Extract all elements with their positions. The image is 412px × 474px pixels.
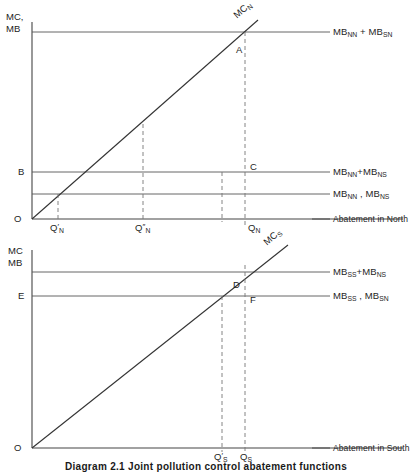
top-legend-1-b: MB xyxy=(368,26,382,37)
top-xtick-2-base: Q xyxy=(248,222,256,233)
top-xtick-2-sub: N xyxy=(256,227,261,234)
diagram-figure: MC, MB B O A C MCN Q′N Q″N QN MBNN + MBS… xyxy=(0,0,412,474)
bottom-legend-2-b-sub: SN xyxy=(379,295,388,302)
top-mc-n-curve xyxy=(32,20,258,219)
bottom-legend-2-op: , xyxy=(357,290,365,301)
bottom-y-axis-label-line1: MC xyxy=(8,245,23,257)
top-y-axis-label-line1: MC, xyxy=(6,11,23,23)
top-legend-3-op: , xyxy=(357,188,365,199)
top-y-axis-label-line2: MB xyxy=(6,23,23,35)
top-y-axis-label: MC, MB xyxy=(6,11,23,34)
bottom-legend-2-b: MB xyxy=(365,290,379,301)
top-xtick-1-base: Q xyxy=(135,222,143,233)
bottom-legend-1-b: MB xyxy=(362,266,376,277)
bottom-mc-s-curve xyxy=(32,245,288,448)
top-legend-1-a: MB xyxy=(333,26,347,37)
bottom-legend-2-a: MB xyxy=(333,290,347,301)
top-legend-mb-nn-plus-mb-sn: MBNN + MBSN xyxy=(333,26,392,38)
top-xtick-q-prime-n: Q′N xyxy=(50,222,64,234)
top-legend-3-b: MB xyxy=(366,188,380,199)
top-xtick-1-sub: N xyxy=(145,227,150,234)
bottom-x-axis-title: Abatement in South xyxy=(333,443,409,454)
top-legend-1-op: + xyxy=(357,26,368,37)
top-legend-1-a-sub: NN xyxy=(347,31,357,38)
bottom-point-d: D xyxy=(233,279,240,290)
bottom-legend-1-a-sub: SS xyxy=(347,271,356,278)
top-x-axis-title: Abatement in North xyxy=(333,214,408,225)
top-point-c: C xyxy=(250,161,257,172)
top-point-a: A xyxy=(236,44,242,55)
top-legend-1-b-sub: SN xyxy=(383,31,392,38)
top-legend-2-b: MB xyxy=(363,166,377,177)
top-xtick-0-sub: N xyxy=(59,227,64,234)
top-xtick-0-base: Q xyxy=(50,222,58,233)
top-legend-3-a: MB xyxy=(333,188,347,199)
top-axis-tick-b: B xyxy=(18,166,24,177)
top-xtick-q-dprime-n: Q″N xyxy=(135,222,150,234)
bottom-legend-1-a: MB xyxy=(333,266,347,277)
bottom-legend-mb-ss-comma-mb-sn: MBSS , MBSN xyxy=(333,290,389,302)
top-legend-mb-nn-plus-mb-ns: MBNN+MBNS xyxy=(333,166,387,178)
top-origin-label: O xyxy=(14,213,22,224)
top-legend-mb-nn-comma-mb-ns: MBNN , MBNS xyxy=(333,188,389,200)
top-legend-2-a-sub: NN xyxy=(347,171,357,178)
figure-caption: Diagram 2.1 Joint pollution control abat… xyxy=(0,461,412,474)
bottom-legend-mb-ss-plus-mb-ns: MBSS+MBNS xyxy=(333,266,386,278)
top-xtick-q-n: QN xyxy=(248,222,260,234)
top-legend-2-b-sub: NS xyxy=(377,171,386,178)
top-legend-2-a: MB xyxy=(333,166,347,177)
diagram-canvas xyxy=(0,0,412,474)
bottom-y-axis-label: MC MB xyxy=(8,245,23,268)
top-legend-3-b-sub: NS xyxy=(380,193,389,200)
top-legend-3-a-sub: NN xyxy=(347,193,357,200)
bottom-origin-label: O xyxy=(14,442,22,453)
bottom-axis-tick-e: E xyxy=(18,290,24,301)
bottom-point-f: F xyxy=(250,294,256,305)
bottom-legend-1-b-sub: NS xyxy=(377,271,386,278)
bottom-y-axis-label-line2: MB xyxy=(8,257,23,269)
bottom-legend-2-a-sub: SS xyxy=(347,295,356,302)
